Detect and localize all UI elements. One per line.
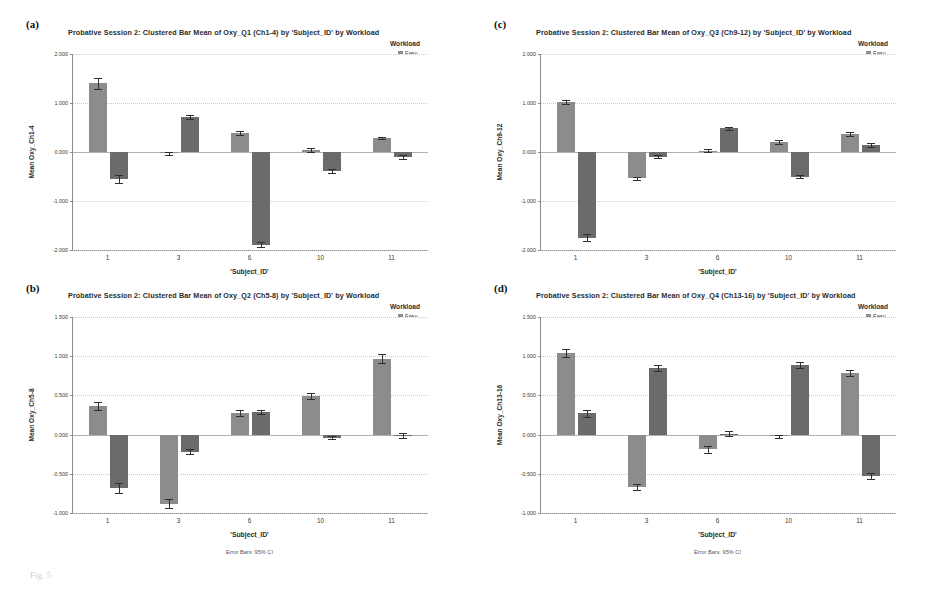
y-tick-mark (70, 435, 73, 436)
error-bar-line (587, 234, 588, 241)
error-bar-cap (583, 417, 591, 418)
error-bar-cap (257, 242, 265, 243)
error-bar-cap (583, 234, 591, 235)
legend-title: Workload (390, 303, 420, 310)
y-tick-label: 0.500 (504, 392, 536, 398)
chart-panel-d: (d)Probative Session 2: Clustered Bar Me… (468, 262, 936, 557)
error-bar-cap (704, 152, 712, 153)
x-tick-label: 1 (106, 517, 110, 524)
x-tick-label: 10 (785, 517, 792, 524)
x-tick-label: 1 (574, 254, 578, 261)
x-tick-label: 6 (248, 517, 252, 524)
error-bar-line (382, 354, 383, 363)
error-bar-cap (725, 431, 733, 432)
y-tick-label: 1.500 (504, 314, 536, 320)
error-bar-cap (257, 410, 265, 411)
panel-letter: (b) (26, 282, 39, 294)
plot-area (72, 54, 428, 251)
error-bar-cap (867, 479, 875, 480)
error-bar-cap (115, 183, 123, 184)
error-bar-cap (725, 130, 733, 131)
error-bar-cap (94, 89, 102, 90)
bar-hard-10 (791, 365, 809, 435)
y-tick-label: -1.000 (36, 198, 68, 204)
y-tick-label: 2.000 (36, 51, 68, 57)
chart-panel-b: (b)Probative Session 2: Clustered Bar Me… (0, 262, 468, 557)
error-bar-cap (307, 399, 315, 400)
y-tick-mark (70, 201, 73, 202)
error-bar-cap (704, 149, 712, 150)
y-tick-label: 0.000 (504, 149, 536, 155)
bar-easy-3 (628, 152, 646, 178)
y-tick-mark (70, 395, 73, 396)
figure-caption: Fig. 5 (30, 570, 51, 580)
error-bar-cap (236, 410, 244, 411)
error-bar-cap (236, 416, 244, 417)
x-tick-label: 10 (317, 517, 324, 524)
y-tick-mark (538, 250, 541, 251)
bar-hard-6 (720, 128, 738, 152)
x-tick-label: 10 (317, 254, 324, 261)
error-bar-cap (94, 410, 102, 411)
error-bar-cap (186, 119, 194, 120)
gridline (541, 513, 896, 514)
error-bar-cap (562, 349, 570, 350)
x-tick-label: 11 (388, 517, 395, 524)
error-bar-cap (867, 143, 875, 144)
error-bar-cap (654, 371, 662, 372)
y-tick-label: -1.000 (36, 510, 68, 516)
error-bar-cap (186, 454, 194, 455)
bar-easy-11 (373, 138, 391, 152)
gridline (541, 317, 896, 318)
error-bar-cap (399, 433, 407, 434)
error-bar-line (566, 349, 567, 357)
error-bar-cap (867, 473, 875, 474)
error-bar-cap (399, 159, 407, 160)
bar-easy-1 (557, 102, 575, 152)
legend-title: Workload (390, 40, 420, 47)
x-tick-label: 11 (388, 254, 395, 261)
error-bar-cap (633, 177, 641, 178)
y-tick-mark (538, 356, 541, 357)
error-bars-footnote: Error Bars: 95% CI (694, 549, 741, 555)
x-axis-label: 'Subject_ID' (230, 531, 268, 538)
bar-easy-11 (373, 359, 391, 435)
error-bar-cap (115, 483, 123, 484)
error-bar-cap (704, 446, 712, 447)
error-bar-cap (633, 490, 641, 491)
error-bar-cap (562, 357, 570, 358)
error-bar-cap (775, 144, 783, 145)
error-bar-cap (399, 438, 407, 439)
error-bar-cap (165, 152, 173, 153)
y-tick-mark (538, 54, 541, 55)
error-bar-cap (775, 140, 783, 141)
y-tick-label: 1.000 (504, 353, 536, 359)
legend-title: Workload (858, 303, 888, 310)
bar-easy-10 (302, 396, 320, 434)
y-tick-mark (70, 250, 73, 251)
x-tick-label: 3 (645, 517, 649, 524)
y-axis-label: Mean Oxy_Ch5-8 (28, 388, 35, 441)
y-tick-label: 1.500 (36, 314, 68, 320)
error-bars-footnote: Error Bars: 95% CI (226, 549, 273, 555)
panel-letter: (c) (494, 18, 506, 30)
error-bar-cap (796, 178, 804, 179)
error-bar-cap (654, 155, 662, 156)
y-tick-mark (538, 395, 541, 396)
gridline (73, 513, 428, 514)
error-bar-cap (115, 493, 123, 494)
y-tick-label: -0.500 (36, 471, 68, 477)
y-tick-mark (538, 474, 541, 475)
error-bar-cap (328, 439, 336, 440)
y-tick-label: 1.000 (36, 100, 68, 106)
y-tick-mark (538, 103, 541, 104)
y-tick-mark (70, 317, 73, 318)
plot-area (72, 317, 428, 514)
chart-panel-a: (a)Probative Session 2: Clustered Bar Me… (0, 0, 468, 295)
error-bar-cap (186, 449, 194, 450)
x-tick-label: 10 (785, 254, 792, 261)
error-bar-cap (328, 169, 336, 170)
error-bar-cap (633, 180, 641, 181)
y-axis-label: Mean Oxy_Ch9-12 (496, 124, 503, 181)
x-tick-label: 1 (574, 517, 578, 524)
